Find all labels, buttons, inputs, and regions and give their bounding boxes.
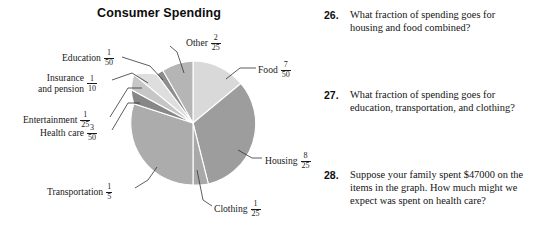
pie-label-education: Education 1 50 (62, 49, 114, 67)
pie-label-insurance-line2: and pension (38, 83, 84, 94)
pie-label-clothing-text: Clothing (214, 203, 248, 214)
pie-label-food-text: Food (258, 64, 278, 75)
pie-label-entertainment-text: Entertainment (23, 114, 77, 125)
pie-label-insurance-text: Insurance and pension (38, 73, 84, 94)
pie-fraction-insurance-and-pension: 1 10 (87, 75, 97, 93)
pie-label-other-text: Other (186, 37, 208, 48)
pie-label-insurance-and-pension: Insurance and pension 1 10 (38, 73, 97, 94)
pie-label-housing-text: Housing (265, 155, 298, 166)
pie-label-transportation: Transportation 1 5 (47, 183, 112, 201)
question-text: What fraction of spending goes for housi… (350, 8, 529, 34)
pie-fraction-other: 2 25 (211, 34, 221, 52)
question-number: 27. (324, 88, 344, 114)
pie-label-other: Other 2 25 (186, 34, 221, 52)
questions-panel: 26. What fraction of spending goes for h… (318, 0, 535, 242)
pie-slices (131, 61, 256, 185)
pie-label-clothing: Clothing 1 25 (214, 200, 261, 218)
question-text: What fraction of spending goes for educa… (350, 88, 535, 114)
pie-label-food: Food 7 50 (258, 61, 291, 79)
pie-fraction-clothing: 1 25 (251, 200, 261, 218)
pie-label-insurance-line1: Insurance (47, 72, 84, 83)
question-number: 28. (324, 168, 344, 208)
pie-fraction-education: 1 50 (104, 49, 114, 67)
pie-label-education-text: Education (62, 52, 101, 63)
pie-fraction-entertainment: 1 25 (80, 111, 90, 129)
question-item: 27. What fraction of spending goes for e… (324, 88, 535, 114)
worksheet-page: Consumer Spending (0, 0, 535, 242)
pie-label-entertainment: Entertainment 1 25 (23, 111, 90, 129)
question-item: 28. Suppose your family spent $47000 on … (324, 168, 535, 208)
question-item: 26. What fraction of spending goes for h… (324, 8, 529, 34)
pie-label-housing: Housing 8 25 (265, 152, 311, 170)
pie-fraction-housing: 8 25 (301, 152, 311, 170)
pie-fraction-transportation: 1 5 (106, 183, 112, 201)
consumer-spending-chart: Consumer Spending (0, 0, 318, 242)
pie-fraction-food: 7 50 (281, 61, 291, 79)
question-number: 26. (324, 8, 344, 34)
question-text: Suppose your family spent $47000 on the … (350, 168, 535, 208)
pie-label-transportation-text: Transportation (47, 186, 103, 197)
pie-label-health-care-text: Health care (40, 127, 84, 138)
